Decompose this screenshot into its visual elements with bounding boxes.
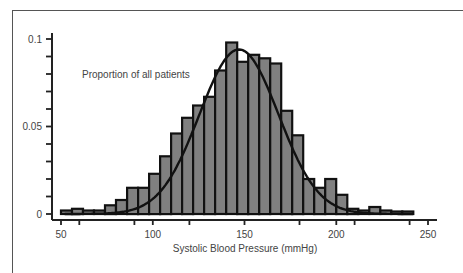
x-tick-label: 50: [55, 229, 67, 240]
y-axis-annotation: Proportion of all patients: [82, 69, 190, 80]
x-tick-label: 150: [236, 229, 253, 240]
histogram-bar: [314, 188, 325, 214]
histogram-bar: [292, 135, 303, 214]
histogram-bar: [336, 195, 347, 214]
x-tick-label: 100: [144, 229, 161, 240]
y-tick-label: 0: [36, 209, 42, 220]
histogram-bar: [215, 71, 226, 215]
histogram-bar: [138, 188, 149, 214]
histogram-bar: [237, 62, 248, 214]
x-axis-label: Systolic Blood Pressure (mmHg): [173, 243, 317, 254]
histogram-bar: [325, 179, 336, 214]
histogram-bar: [226, 43, 237, 215]
y-tick-label: 0.1: [28, 34, 42, 45]
histogram-chart: 00.050.150100150200250 Proportion of all…: [0, 0, 463, 273]
histogram-bar: [193, 106, 204, 215]
histogram-bar: [204, 97, 215, 214]
x-tick-label: 250: [420, 229, 437, 240]
y-tick-label: 0.05: [23, 121, 43, 132]
histogram-bar: [248, 55, 259, 214]
x-tick-label: 200: [328, 229, 345, 240]
histogram-bar: [270, 64, 281, 215]
